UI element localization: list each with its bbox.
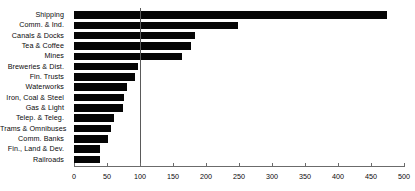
bar bbox=[74, 32, 195, 40]
bar-row bbox=[74, 31, 404, 41]
bar bbox=[74, 94, 124, 102]
horizontal-bar-chart: ShippingComm. & Ind.Canals & DocksTea & … bbox=[0, 0, 415, 191]
category-label: Trams & Omnibuses bbox=[0, 124, 68, 134]
bar-row bbox=[74, 134, 404, 144]
x-tick-mark bbox=[140, 163, 141, 167]
x-tick-label: 500 bbox=[398, 172, 410, 181]
x-tick-label: 450 bbox=[365, 172, 377, 181]
bar-row bbox=[74, 113, 404, 123]
category-label: Telep. & Teleg. bbox=[0, 113, 68, 123]
x-tick-label: 300 bbox=[266, 172, 278, 181]
bar bbox=[74, 114, 114, 122]
bar bbox=[74, 11, 387, 19]
bar bbox=[74, 104, 123, 112]
bar bbox=[74, 135, 108, 143]
category-label: Waterworks bbox=[0, 82, 68, 92]
bar-row bbox=[74, 10, 404, 20]
bar-row bbox=[74, 82, 404, 92]
bar-row bbox=[74, 144, 404, 154]
reference-line bbox=[140, 8, 141, 166]
bar bbox=[74, 73, 135, 81]
x-tick-mark bbox=[206, 163, 207, 167]
bar bbox=[74, 53, 182, 61]
x-tick-mark bbox=[338, 163, 339, 167]
category-label: Iron, Coal & Steel bbox=[0, 93, 68, 103]
x-tick-mark bbox=[371, 163, 372, 167]
category-label: Mines bbox=[0, 51, 68, 61]
x-tick-mark bbox=[404, 163, 405, 167]
x-tick-label: 100 bbox=[134, 172, 146, 181]
x-tick-label: 200 bbox=[200, 172, 212, 181]
bar bbox=[74, 42, 191, 50]
x-tick-mark bbox=[107, 163, 108, 167]
category-label: Canals & Docks bbox=[0, 31, 68, 41]
category-label: Comm. Banks bbox=[0, 134, 68, 144]
bar bbox=[74, 145, 100, 153]
plot-area bbox=[74, 10, 404, 165]
category-label: Fin. Trusts bbox=[0, 72, 68, 82]
bar bbox=[74, 156, 100, 164]
bar-row bbox=[74, 62, 404, 72]
category-label: Breweries & Dist. bbox=[0, 62, 68, 72]
category-label: Fin., Land & Dev. bbox=[0, 144, 68, 154]
bar bbox=[74, 125, 111, 133]
x-tick-mark bbox=[173, 163, 174, 167]
category-axis-labels: ShippingComm. & Ind.Canals & DocksTea & … bbox=[0, 10, 68, 165]
bar bbox=[74, 63, 138, 71]
x-tick-label: 50 bbox=[103, 172, 111, 181]
x-tick-mark bbox=[74, 163, 75, 167]
x-tick-mark bbox=[305, 163, 306, 167]
x-tick-mark bbox=[239, 163, 240, 167]
bar-row bbox=[74, 103, 404, 113]
x-tick-mark bbox=[272, 163, 273, 167]
category-label: Tea & Coffee bbox=[0, 41, 68, 51]
bar-row bbox=[74, 41, 404, 51]
bar-row bbox=[74, 124, 404, 134]
bar bbox=[74, 22, 238, 30]
bar-row bbox=[74, 51, 404, 61]
category-label: Gas & Light bbox=[0, 103, 68, 113]
category-label: Railroads bbox=[0, 155, 68, 165]
x-tick-label: 150 bbox=[167, 172, 179, 181]
bar-row bbox=[74, 72, 404, 82]
x-tick-label: 400 bbox=[332, 172, 344, 181]
x-tick-label: 350 bbox=[299, 172, 311, 181]
category-label: Comm. & Ind. bbox=[0, 20, 68, 30]
bar-row bbox=[74, 93, 404, 103]
bar-row bbox=[74, 20, 404, 30]
x-tick-label: 250 bbox=[233, 172, 245, 181]
x-tick-label: 0 bbox=[72, 172, 76, 181]
category-label: Shipping bbox=[0, 10, 68, 20]
bar bbox=[74, 83, 127, 91]
